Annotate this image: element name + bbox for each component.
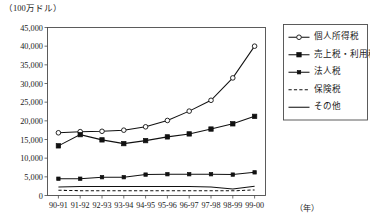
data-point-marker (252, 44, 257, 49)
series-0 (56, 44, 257, 135)
series-line (58, 172, 254, 178)
data-point-marker (144, 173, 147, 176)
y-tick-label: 45,000 (20, 24, 43, 33)
x-tick-label: 99-00 (245, 201, 264, 210)
data-point-marker (253, 171, 256, 174)
series-2 (57, 171, 257, 181)
data-point-marker (100, 129, 105, 134)
x-tick-label: 98-99 (223, 201, 242, 210)
legend-item-label: 個人所得税 (314, 30, 359, 41)
data-point-marker (122, 141, 126, 145)
data-point-marker (187, 109, 192, 114)
data-point-marker (165, 118, 170, 123)
data-point-marker (231, 122, 235, 126)
data-point-marker (165, 135, 169, 139)
legend-item-label: 保険税 (314, 83, 341, 94)
data-point-marker (143, 125, 148, 130)
series-line (58, 186, 254, 189)
data-point-marker (57, 177, 60, 180)
chart-container: （100万ドル） 45,00040,00035,00030,00025,0002… (0, 0, 370, 221)
data-point-marker (209, 173, 212, 176)
legend-swatch-marker (297, 71, 300, 74)
data-point-marker (79, 177, 82, 180)
legend-swatch-marker (297, 35, 302, 40)
x-tick-label: 96-97 (180, 201, 199, 210)
series-3 (58, 190, 254, 191)
series-line (58, 46, 254, 133)
legend-item-label: その他 (314, 100, 341, 111)
chart-plot-svg: 45,00040,00035,00030,00025,00020,00015,0… (0, 0, 370, 221)
y-tick-label: 10,000 (20, 154, 43, 163)
data-point-marker (209, 98, 214, 103)
series-4 (58, 186, 254, 189)
legend-item-label: 法人税 (314, 65, 341, 76)
data-point-marker (100, 176, 103, 179)
plot-frame (48, 28, 266, 196)
y-tick-label: 5,000 (24, 173, 43, 182)
x-tick-label: 93-94 (114, 201, 133, 210)
series-line (58, 190, 254, 191)
y-tick-label: 30,000 (20, 80, 43, 89)
data-point-marker (252, 114, 256, 118)
data-point-marker (122, 176, 125, 179)
y-tick-label: 35,000 (20, 61, 43, 70)
data-point-marker (143, 138, 147, 142)
data-point-marker (78, 132, 82, 136)
x-tick-label: 90-91 (49, 201, 68, 210)
data-point-marker (56, 144, 60, 148)
legend-swatch-marker (297, 53, 301, 57)
y-tick-label: 25,000 (20, 98, 43, 107)
legend-item-label: 売上税・利用税 (314, 48, 370, 59)
x-axis-tick-labels: 90-9191-9292-9393-9494-9595-9696-9797-98… (49, 201, 264, 210)
data-point-marker (56, 130, 61, 135)
y-tick-label: 40,000 (20, 42, 43, 51)
y-tick-label: 20,000 (20, 117, 43, 126)
chart-legend: 個人所得税売上税・利用税法人税保険税その他 (284, 25, 370, 121)
data-point-marker (122, 128, 127, 133)
x-tick-label: 92-93 (93, 201, 112, 210)
data-point-marker (100, 138, 104, 142)
y-tick-label: 0 (39, 192, 43, 201)
data-point-marker (209, 127, 213, 131)
y-tick-label: 15,000 (20, 136, 43, 145)
data-point-marker (231, 173, 234, 176)
data-point-marker (187, 132, 191, 136)
x-tick-label: 91-92 (71, 201, 90, 210)
x-tick-label: 95-96 (158, 201, 177, 210)
y-axis-tick-labels: 45,00040,00035,00030,00025,00020,00015,0… (20, 24, 43, 201)
chart-series-layer (56, 44, 257, 191)
data-point-marker (166, 173, 169, 176)
x-axis-caption: （年） (295, 203, 319, 213)
data-point-marker (231, 76, 236, 81)
x-tick-label: 94-95 (136, 201, 155, 210)
x-tick-label: 97-98 (202, 201, 221, 210)
data-point-marker (188, 173, 191, 176)
